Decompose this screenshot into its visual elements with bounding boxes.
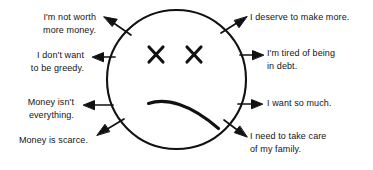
arrow-money-isnt-everything xyxy=(84,101,114,110)
label-tired-of-being-in-debt: I'm tired of being in debt. xyxy=(267,47,367,72)
label-money-is-scarce: Money is scarce. xyxy=(0,134,88,147)
arrow-deserve-to-make-more xyxy=(221,17,247,33)
arrow-not-worth-more-money xyxy=(104,17,131,35)
money-mindset-diagram: I'm not worth more money. I don't want t… xyxy=(0,0,373,170)
arrow-money-is-scarce xyxy=(97,119,124,135)
label-not-worth-more-money: I'm not worth more money. xyxy=(10,11,96,36)
label-dont-want-to-be-greedy: I don't want to be greedy. xyxy=(0,49,84,74)
label-money-isnt-everything: Money isn't everything. xyxy=(0,96,74,121)
arrow-take-care-of-my-family xyxy=(224,120,247,137)
label-want-so-much: I want so much. xyxy=(267,97,367,110)
label-take-care-of-my-family: I need to take care of my family. xyxy=(250,130,368,155)
label-deserve-to-make-more: I deserve to make more. xyxy=(250,11,368,24)
